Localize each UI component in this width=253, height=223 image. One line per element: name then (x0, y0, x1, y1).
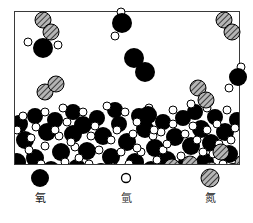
container-box (14, 11, 240, 165)
water-molecule (24, 38, 62, 58)
legend-item-nitrogen[interactable]: 氮 (180, 166, 240, 206)
nitrogen-swatch-icon (180, 166, 240, 190)
diagram-stage: 氧 氫 (0, 0, 253, 223)
water-molecule (225, 63, 247, 92)
hydrogen-swatch-icon (96, 166, 156, 190)
legend-label-hydrogen: 氫 (96, 192, 156, 206)
gas-phase (15, 12, 239, 164)
legend-label-oxygen: 氧 (10, 192, 70, 206)
legend-label-nitrogen: 氮 (180, 192, 240, 206)
gas-oxygen-molecule (124, 48, 155, 82)
legend-item-hydrogen[interactable]: 氫 (96, 166, 156, 206)
water-molecule (133, 106, 158, 134)
legend-item-oxygen[interactable]: 氧 (10, 166, 70, 206)
oxygen-swatch-icon (10, 166, 70, 190)
legend: 氧 氫 (0, 166, 253, 223)
water-molecule (111, 8, 132, 40)
